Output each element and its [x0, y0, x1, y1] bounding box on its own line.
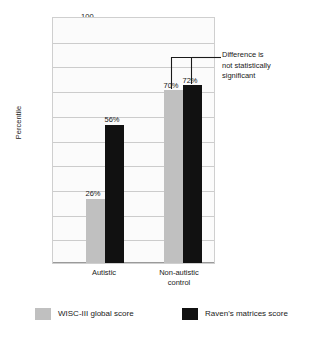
annotation-line-2: not statistically [222, 61, 320, 72]
annotation-line-1: Difference is [222, 50, 320, 61]
bar-control-wisc[interactable] [164, 90, 183, 263]
bar-value-label-autistic-ravens: 56% [94, 116, 130, 124]
legend-swatch-black-icon [182, 308, 198, 320]
x-tick-label-control-line1: Non-autistic [139, 268, 219, 278]
plot-area [52, 17, 215, 264]
bar-autistic-wisc[interactable] [86, 199, 105, 263]
x-tick-label-autistic: Autistic [66, 268, 142, 278]
x-tick-label-control-line2: control [139, 278, 219, 288]
legend-label-wisc: WISC-III global score [58, 308, 134, 320]
gridline-80 [53, 67, 214, 68]
annotation-line-3: significant [222, 71, 320, 82]
y-axis-title: Percentile [14, 63, 23, 183]
legend-label-ravens: Raven's matrices score [205, 308, 288, 320]
bar-value-label-control-ravens: 72% [172, 77, 208, 85]
bar-value-label-autistic-wisc: 26% [75, 190, 111, 198]
bar-chart-figure: 100 90 80 70 60 50 40 30 20 10 0 Percent… [0, 0, 323, 340]
gridline-90 [53, 43, 214, 44]
annotation-text: Difference is not statistically signific… [222, 50, 320, 82]
bar-control-ravens[interactable] [183, 85, 202, 263]
legend-swatch-gray-icon [35, 308, 51, 320]
chart-legend: WISC-III global score Raven's matrices s… [0, 306, 323, 326]
